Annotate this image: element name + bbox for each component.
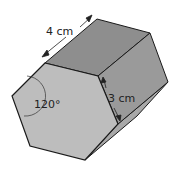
edge-label: 3 cm — [108, 92, 135, 105]
hexagonal-prism-diagram: 4 cm 3 cm 120° — [0, 0, 176, 170]
prism-drawing — [0, 0, 176, 170]
angle-label: 120° — [34, 98, 61, 111]
length-label: 4 cm — [46, 25, 73, 38]
